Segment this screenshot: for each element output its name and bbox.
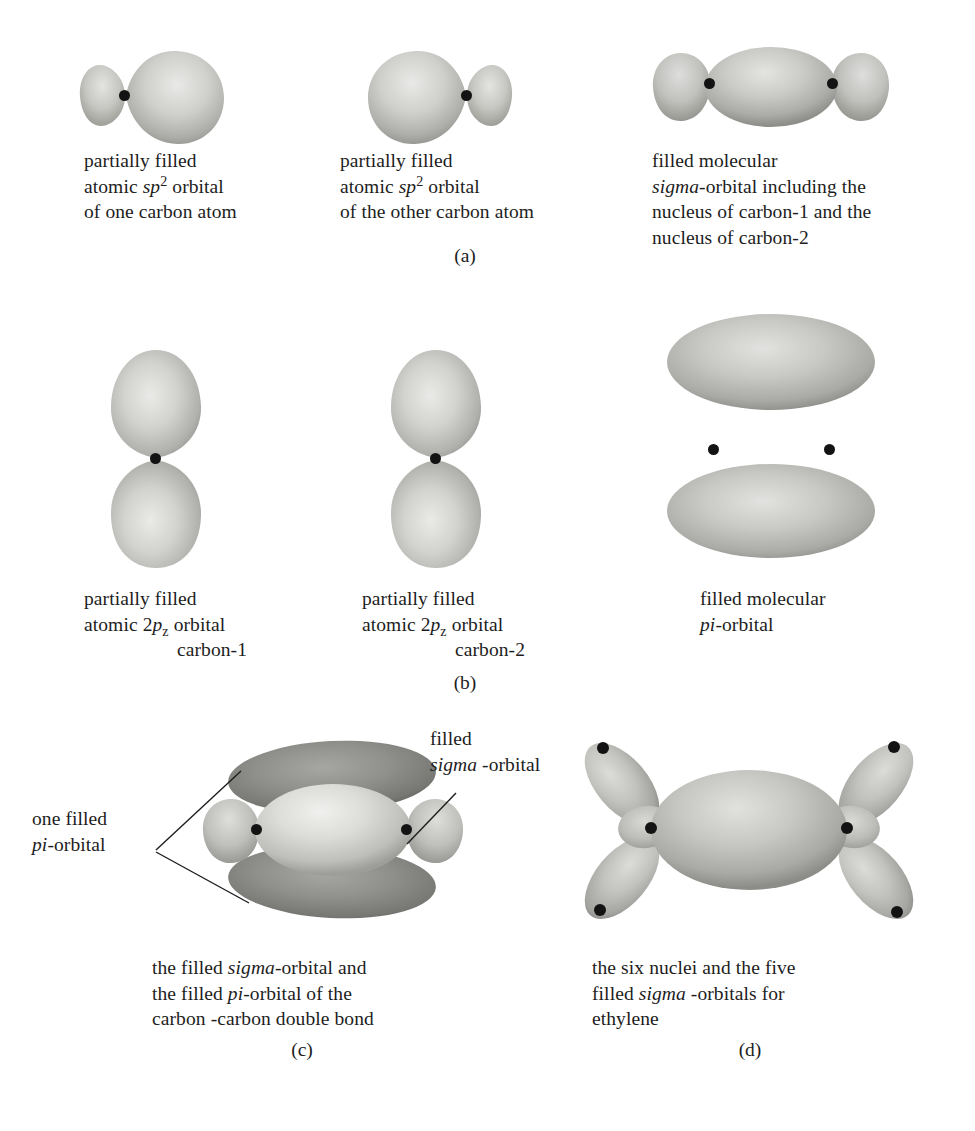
carbon-1-nucleus-dot — [704, 78, 715, 89]
carbon-1-nucleus-dot — [708, 444, 719, 455]
carbon-1-nucleus-dot — [150, 453, 161, 464]
hydrogen-nucleus-dot-lower-left — [594, 904, 606, 916]
panel-label-a: (a) — [415, 244, 515, 268]
carbon-2-nucleus-dot — [430, 453, 441, 464]
orbital-filled-molecular-pi — [648, 312, 898, 562]
carbon-2-nucleus-dot — [827, 78, 838, 89]
hydrogen-nucleus-dot-lower-right — [891, 906, 903, 918]
hydrogen-nucleus-dot-upper-left — [597, 742, 609, 754]
orbital-2pz-carbon-2 — [380, 340, 492, 576]
caption-sp2-other-carbon: partially filledatomic sp2 orbitalof the… — [340, 148, 640, 225]
caption-2pz-carbon-1: partially filledatomic 2pz orbitalcarbon… — [84, 586, 340, 663]
panel-label-b: (b) — [415, 671, 515, 695]
caption-sigma-and-pi-double-bond: the filled sigma-orbital andthe filled p… — [152, 955, 482, 1032]
panel-label-d: (d) — [700, 1038, 800, 1062]
panel-label-c: (c) — [252, 1038, 352, 1062]
leader-line-sigma-orbital — [398, 790, 468, 852]
carbon-1-nucleus-dot — [645, 822, 657, 834]
carbon-2-nucleus-dot — [824, 444, 835, 455]
orbital-sp2-carbon-one — [78, 40, 228, 152]
carbon-nucleus-dot — [461, 90, 472, 101]
orbital-2pz-carbon-1 — [100, 340, 212, 576]
orbital-filled-molecular-sigma — [650, 40, 892, 140]
caption-2pz-carbon-2: partially filledatomic 2pz orbitalcarbon… — [362, 586, 618, 663]
carbon-2-nucleus-dot — [841, 822, 853, 834]
carbon-nucleus-dot — [119, 90, 130, 101]
annotation-one-filled-pi-orbital: one filledpi-orbital — [32, 806, 162, 857]
figure-root: partially filledatomic sp2 orbitalof one… — [0, 0, 975, 1131]
caption-filled-molecular-pi: filled molecularpi-orbital — [700, 586, 960, 637]
caption-filled-molecular-sigma: filled molecularsigma-orbital including … — [652, 148, 972, 250]
orbital-sp2-other-carbon — [366, 40, 516, 152]
caption-sp2-carbon-one: partially filledatomic sp2 orbitalof one… — [84, 148, 354, 225]
hydrogen-nucleus-dot-upper-right — [888, 741, 900, 753]
caption-ethylene-sigma-skeleton: the six nuclei and the fivefilled sigma … — [592, 955, 922, 1032]
orbital-ethylene-sigma-skeleton — [566, 726, 932, 938]
